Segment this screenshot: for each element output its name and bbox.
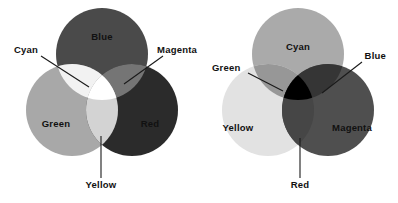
callout-blue-text: Blue bbox=[365, 50, 386, 61]
label-blue: Blue bbox=[91, 31, 112, 42]
label-cyan: Cyan bbox=[286, 41, 310, 52]
callout-red-text: Red bbox=[291, 179, 310, 190]
callout-yellow-text: Yellow bbox=[86, 179, 117, 190]
color-model-venn-svg: BlueGreenRedCyanMagentaYellowCyanYellowM… bbox=[0, 0, 398, 203]
label-magenta: Magenta bbox=[332, 122, 372, 133]
callout-cyan-text: Cyan bbox=[14, 44, 38, 55]
callout-magenta-text: Magenta bbox=[157, 44, 197, 55]
label-red: Red bbox=[141, 118, 160, 129]
label-green: Green bbox=[42, 118, 70, 129]
callout-green-text: Green bbox=[212, 62, 240, 73]
color-venn-figure: BlueGreenRedCyanMagentaYellowCyanYellowM… bbox=[0, 0, 398, 203]
label-yellow: Yellow bbox=[223, 122, 254, 133]
